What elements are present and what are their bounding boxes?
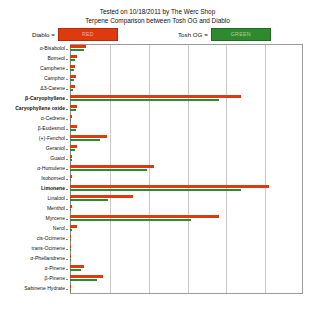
y-axis-tick [66,89,68,90]
bar-diablo [70,155,72,158]
bar-row [70,234,303,244]
bar-tosh-og [70,49,84,52]
bar-diablo [70,165,154,168]
y-axis-tick [66,179,68,180]
bar-diablo [70,145,77,148]
bar-tosh-og [70,209,71,212]
y-axis-label: Camphene [0,66,65,72]
y-axis-tick [66,69,68,70]
bar-rows [70,44,303,294]
y-axis-label: α-Bisabolol [0,46,65,52]
bar-row [70,44,303,54]
bar-tosh-og [70,169,147,172]
bar-tosh-og [70,79,74,82]
bar-tosh-og [70,249,71,252]
bar-tosh-og [70,229,72,232]
y-axis-label: Geraniol [0,146,65,152]
y-axis-tick [66,189,68,190]
y-axis-tick [66,169,68,170]
bar-diablo [70,265,84,268]
bar-diablo [70,115,72,118]
legend-swatch-tosh-og: GREEN [211,28,271,41]
bar-row [70,284,303,294]
y-axis-label: Nerol [0,226,65,232]
y-axis-tick [66,139,68,140]
y-axis-tick [66,159,68,160]
y-axis-tick [66,79,68,80]
bar-diablo [70,205,72,208]
bar-row [70,124,303,134]
bar-tosh-og [70,89,73,92]
bar-row [70,254,303,264]
bar-tosh-og [70,109,76,112]
bar-diablo [70,255,71,258]
y-axis-label: α-Cedrene [0,116,65,122]
y-axis-label: β-Eudesmol [0,126,65,132]
bar-diablo [70,75,76,78]
y-axis-label: Sabinene Hydrate [0,286,65,292]
bar-diablo [70,135,107,138]
bar-row [70,204,303,214]
bar-diablo [70,185,269,188]
y-axis-label: trans-Ocimene [0,246,65,252]
y-axis-tick [66,239,68,240]
y-axis-label: Borneol [0,56,65,62]
y-axis-tick [66,209,68,210]
bar-diablo [70,65,75,68]
bar-tosh-og [70,139,100,142]
bar-diablo [70,285,71,288]
y-axis-label: Guaiol [0,156,65,162]
bar-diablo [70,125,77,128]
chart-legend: Diablo = RED Tosh OG = GREEN [0,27,315,41]
bar-tosh-og [70,99,219,102]
y-axis-tick [66,269,68,270]
bar-row [70,174,303,184]
bar-tosh-og [70,279,97,282]
bar-tosh-og [70,59,75,62]
y-axis-label: Caryophyllene oxide [0,106,65,112]
bar-diablo [70,55,77,58]
y-axis-label: Linalool [0,196,65,202]
legend-item-tosh-og: Tosh OG = GREEN [178,27,271,41]
bar-tosh-og [70,199,108,202]
y-axis-label: cis-Ocimene [0,236,65,242]
bar-row [70,54,303,64]
bar-tosh-og [70,159,72,162]
bar-tosh-og [70,179,71,182]
bar-row [70,224,303,234]
y-axis-label: Isoborneol [0,176,65,182]
bar-tosh-og [70,189,241,192]
bar-row [70,184,303,194]
y-axis-tick [66,129,68,130]
bar-row [70,64,303,74]
bar-diablo [70,215,219,218]
y-axis-tick [66,149,68,150]
y-axis-tick [66,219,68,220]
bar-diablo [70,85,75,88]
y-axis-label: α-Phellandrene [0,256,65,262]
legend-label-diablo: Diablo = [32,31,55,38]
bar-diablo [70,245,71,248]
bar-row [70,164,303,174]
bar-row [70,194,303,204]
bar-row [70,244,303,254]
y-axis-tick [66,229,68,230]
y-axis-label: Limonene [0,186,65,192]
terpene-comparison-chart: Tested on 10/18/2011 by The Werc Shop Te… [0,0,315,315]
chart-title-block: Tested on 10/18/2011 by The Werc Shop Te… [0,7,315,25]
chart-subtitle: Tested on 10/18/2011 by The Werc Shop [0,7,315,16]
y-axis-tick [66,279,68,280]
y-axis-label: Δ3-Carene [0,86,65,92]
y-axis-tick [66,259,68,260]
legend-swatch-diablo: RED [58,28,118,41]
legend-swatch-diablo-text: RED [82,31,94,37]
y-axis-tick [66,109,68,110]
bar-row [70,104,303,114]
y-axis-tick [66,119,68,120]
bar-diablo [70,195,133,198]
y-axis-label: Menthol [0,206,65,212]
y-axis-tick [66,199,68,200]
y-axis-label: β-Caryophyllene [0,96,65,102]
bar-row [70,74,303,84]
bar-diablo [70,45,86,48]
